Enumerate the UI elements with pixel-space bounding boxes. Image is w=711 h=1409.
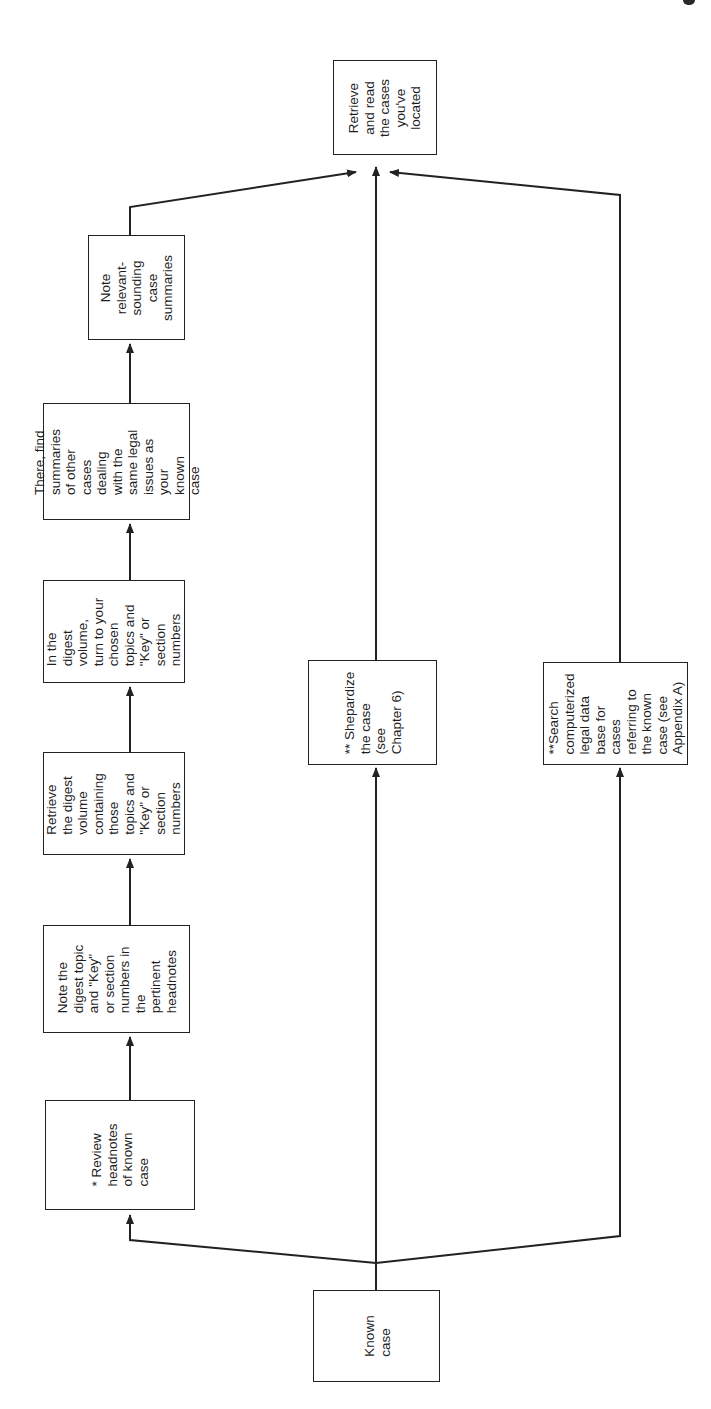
- edge-known-case-to-search-database: [376, 768, 620, 1263]
- flowchart-canvas: Retrieve and read the cases you've locat…: [0, 0, 711, 1409]
- node-note-summaries: Note relevant- sounding case summaries: [88, 235, 185, 340]
- node-review-headnotes-text: * Review headnotes of known case: [89, 1123, 151, 1186]
- node-search-database-text: **Search computerized legal data base fo…: [546, 673, 686, 754]
- node-note-digest-topic-text: Note the digest topic and "Key" or secti…: [55, 945, 179, 1013]
- node-retrieve-digest-volume: Retrieve the digest volume containing th…: [43, 752, 185, 855]
- node-turn-to-topics: In the digest volume, turn to your chose…: [43, 580, 185, 683]
- node-shepardize: ** Shepardize the case (see Chapter 6): [308, 660, 437, 765]
- node-retrieve-cases: Retrieve and read the cases you've locat…: [333, 60, 437, 155]
- node-shepardize-text: ** Shepardize the case (see Chapter 6): [342, 671, 404, 754]
- node-note-summaries-text: Note relevant- sounding case summaries: [98, 254, 176, 320]
- node-find-summaries-text: There, find summaries of other cases dea…: [31, 428, 202, 494]
- edge-known-case-to-review-headnotes: [130, 1215, 376, 1263]
- node-known-case-text: Known case: [361, 1315, 392, 1356]
- node-turn-to-topics-text: In the digest volume, turn to your chose…: [44, 597, 184, 665]
- node-find-summaries: There, find summaries of other cases dea…: [43, 403, 190, 520]
- node-known-case: Known case: [313, 1290, 440, 1382]
- node-retrieve-cases-text: Retrieve and read the cases you've locat…: [346, 79, 424, 137]
- node-review-headnotes: * Review headnotes of known case: [45, 1100, 195, 1210]
- node-note-digest-topic: Note the digest topic and "Key" or secti…: [43, 925, 190, 1033]
- node-retrieve-digest-volume-text: Retrieve the digest volume containing th…: [44, 773, 184, 835]
- edge-search-database-to-retrieve-cases: [390, 172, 620, 662]
- node-search-database: **Search computerized legal data base fo…: [543, 662, 688, 765]
- edge-note-summaries-to-retrieve-cases: [130, 172, 356, 235]
